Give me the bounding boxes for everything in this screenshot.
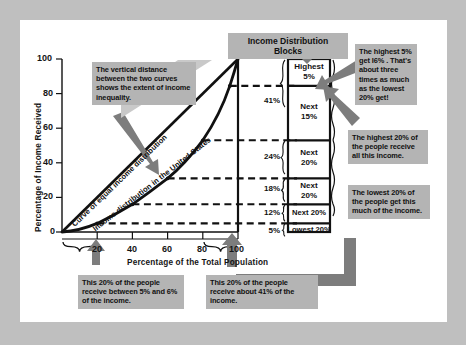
block-label-next-20-fourth: Next 20% — [288, 148, 330, 167]
block-label-next-20-third: Next 20% — [288, 181, 330, 200]
block-label-next-15: Next 15% — [288, 102, 330, 121]
block-pct-24: 24% — [248, 152, 280, 161]
block-pct-5: 5% — [248, 226, 280, 235]
block-line-1: Highest — [294, 62, 323, 71]
callout-lowest-twenty: The lowest 20% of the people get this mu… — [348, 185, 430, 219]
block-label-highest-5: Highest 5% — [288, 62, 330, 81]
callout-bottom-left: This 20% of the people receive between 5… — [78, 275, 184, 309]
y-tick-40: 40 — [43, 157, 53, 167]
blocks-title: Income Distribution Blocks — [228, 33, 348, 59]
callout-highest-twenty: The highest 20% of the people receive al… — [348, 130, 428, 164]
x-tick-80: 80 — [197, 244, 207, 254]
block-line-2: 20% — [301, 158, 317, 167]
x-tick-60: 60 — [162, 244, 172, 254]
callout-bottom-mid: This 20% of the people receive about 41%… — [206, 275, 318, 309]
block-line-2: 20% — [301, 191, 317, 200]
block-line-2: 5% — [303, 72, 315, 81]
block-pct-12: 12% — [248, 208, 280, 217]
block-line-1: Next — [300, 181, 317, 190]
x-tick-20: 20 — [92, 244, 102, 254]
y-tick-60: 60 — [43, 122, 53, 132]
y-tick-0: 0 — [50, 226, 55, 236]
block-line-1: Next — [300, 148, 317, 157]
callout-vertical-distance: The vertical distance between the two cu… — [92, 62, 196, 105]
y-tick-80: 80 — [43, 88, 53, 98]
x-tick-100: 100 — [229, 244, 244, 254]
block-pct-41: 41% — [248, 96, 280, 105]
lorenz-curve-figure: Percentage of Income Received 100 80 60 … — [0, 0, 466, 345]
block-label-next-20-second: Next 20% — [286, 208, 332, 218]
block-pct-18: 18% — [248, 184, 280, 193]
x-axis-label: Percentage of the Total Population — [127, 258, 268, 267]
y-axis-label: Percentage of Income Received — [34, 103, 43, 232]
lorenz-data-points — [95, 84, 231, 225]
y-tick-20: 20 — [43, 191, 53, 201]
block-line-1: Next — [300, 102, 317, 111]
x-tick-40: 40 — [127, 244, 137, 254]
block-label-lowest-20: Lowest 20% — [286, 225, 332, 235]
block-line-2: 15% — [301, 112, 317, 121]
y-tick-100: 100 — [37, 53, 52, 63]
callout-highest-five: The highest 5% get I6% . That's about th… — [355, 44, 417, 105]
